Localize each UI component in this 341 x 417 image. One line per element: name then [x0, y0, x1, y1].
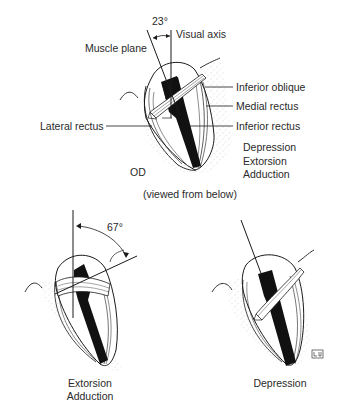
label-eye-side: OD: [130, 166, 146, 178]
action-adduction: Adduction: [60, 390, 120, 403]
action-extorsion: Extorsion: [243, 155, 296, 169]
caption-viewed-from-below: (viewed from below): [143, 188, 237, 200]
top-actions: Depression Extorsion Adduction: [243, 141, 296, 182]
label-lateral-rectus: Lateral rectus: [40, 120, 104, 132]
label-visual-axis: Visual axis: [176, 28, 226, 40]
angle-label-67: 67°: [107, 221, 123, 233]
label-muscle-plane: Muscle plane: [85, 42, 147, 54]
action-extorsion: Extorsion: [60, 377, 120, 390]
bottom-right-eye-illustration: [0, 0, 341, 417]
bottom-right-actions: Depression: [250, 377, 310, 390]
bottom-left-actions: Extorsion Adduction: [60, 377, 120, 403]
action-depression: Depression: [243, 141, 296, 155]
artist-signature: [312, 350, 323, 358]
label-inferior-oblique: Inferior oblique: [236, 81, 305, 93]
action-adduction: Adduction: [243, 168, 296, 182]
label-inferior-rectus: Inferior rectus: [236, 120, 300, 132]
action-depression: Depression: [250, 377, 310, 390]
label-medial-rectus: Medial rectus: [236, 100, 298, 112]
angle-label-23: 23°: [152, 15, 168, 27]
